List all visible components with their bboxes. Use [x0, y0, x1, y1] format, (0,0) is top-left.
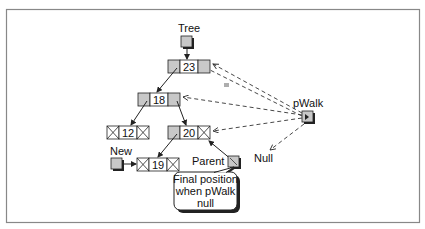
node-value: 20	[183, 127, 195, 139]
callout-box: Final position when pWalk null	[173, 167, 240, 213]
parent-pointer-box	[228, 156, 241, 169]
node-18: 18	[138, 93, 180, 106]
node-19: 19	[137, 158, 179, 171]
node-value: 12	[122, 127, 134, 139]
pwalk-pointer-box	[302, 111, 315, 124]
tick-marks	[224, 84, 229, 86]
null-label: Null	[254, 152, 273, 164]
callout-line-2: when pWalk	[175, 185, 236, 197]
callout-line-1: Final position	[173, 173, 238, 185]
node-value: 19	[152, 159, 164, 171]
node-value: 18	[153, 94, 165, 106]
parent-label: Parent	[192, 155, 224, 167]
callout-line-3: null	[197, 197, 214, 209]
tree-label: Tree	[178, 22, 200, 34]
new-label: New	[110, 145, 132, 157]
binary-tree-insert-diagram: Tree 23 18 12 20	[0, 0, 425, 229]
tree-edges	[131, 68, 232, 160]
node-12: 12	[107, 126, 149, 139]
node-value: 23	[183, 61, 195, 73]
pwalk-label: pWalk	[293, 97, 324, 109]
